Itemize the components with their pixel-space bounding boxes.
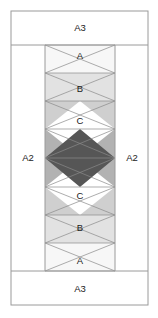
label-a3-1: A3 <box>74 283 86 294</box>
label-b-8: B <box>77 222 83 233</box>
diagram-canvas: A3A3A2A2ABCCBA <box>0 0 158 318</box>
label-c-7: C <box>77 190 84 201</box>
label-a3-0: A3 <box>74 22 86 33</box>
label-a2-2: A2 <box>22 152 34 163</box>
label-a-9: A <box>77 255 84 266</box>
label-a-4: A <box>77 50 84 61</box>
label-c-6: C <box>77 115 84 126</box>
cross-section-figure: A3A3A2A2ABCCBA <box>0 0 158 318</box>
label-b-5: B <box>77 83 83 94</box>
label-a2-3: A2 <box>126 152 138 163</box>
